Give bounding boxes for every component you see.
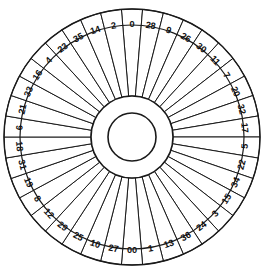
pocket-label-17: 17	[239, 122, 250, 133]
pocket-label-27: 27	[108, 243, 120, 255]
wheel-hub-inner	[108, 113, 156, 161]
pocket-label-28: 28	[145, 20, 157, 32]
pocket-label-5: 5	[239, 143, 249, 149]
pocket-label-6: 6	[14, 125, 24, 131]
roulette-wheel-graphic: 0289263011720321752234153243613100271025…	[0, 0, 265, 273]
roulette-wheel-container: 0289263011720321752234153243613100271025…	[0, 0, 265, 273]
pocket-label-0: 0	[129, 19, 134, 29]
pocket-label-18: 18	[14, 141, 25, 152]
pocket-label-00: 00	[127, 245, 137, 255]
